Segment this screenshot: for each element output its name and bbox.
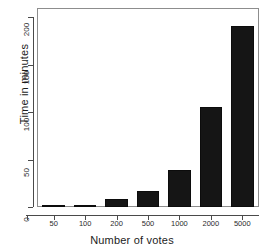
bar-chart: 050100150200 50100200500100020005000 Tim… — [0, 0, 264, 252]
x-tick-label: 1000 — [171, 219, 188, 228]
x-tick-mark — [27, 215, 28, 220]
y-axis-title: Time in minutes — [18, 4, 30, 164]
bar — [74, 205, 97, 207]
bar — [105, 199, 128, 207]
x-axis-line — [26, 215, 259, 216]
y-axis-line — [33, 17, 34, 207]
x-tick-label: 2000 — [203, 219, 220, 228]
bar — [42, 205, 65, 207]
x-tick-label: 200 — [110, 219, 123, 228]
bar — [137, 191, 160, 207]
x-axis-title: Number of votes — [0, 234, 264, 246]
bar — [200, 107, 223, 207]
x-tick-label: 100 — [79, 219, 92, 228]
y-tick-label: 0 — [22, 207, 31, 233]
bar — [231, 26, 254, 207]
bar — [168, 170, 191, 207]
x-tick-label: 5000 — [234, 219, 251, 228]
plot-frame — [37, 8, 259, 207]
x-tick-label: 50 — [50, 219, 58, 228]
x-tick-label: 500 — [142, 219, 155, 228]
